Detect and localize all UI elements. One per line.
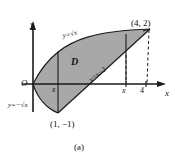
point-label-1-neg1: (1, −1): [50, 120, 75, 129]
dashed-guide-four: [147, 30, 149, 84]
figure-caption: (a): [74, 143, 84, 152]
x-axis-label: x: [165, 89, 169, 98]
point-label-4-2: (4, 2): [131, 19, 151, 28]
origin-label: O: [21, 79, 28, 88]
shaded-region-d: [33, 29, 150, 113]
curve-label-neg-sqrt-x: y=−√x: [8, 102, 28, 109]
x-axis-arrow: [157, 81, 166, 87]
tick-label-four: 4: [140, 87, 144, 95]
figure-container: y x O D x x 4 (4, 2) (1, −1) y=√x y=−√x …: [0, 0, 175, 163]
tick-label-x-inner: x: [52, 86, 56, 94]
region-label-d: D: [71, 57, 78, 67]
tick-label-x-outer: x: [122, 87, 126, 95]
y-axis-label: y: [30, 20, 34, 29]
